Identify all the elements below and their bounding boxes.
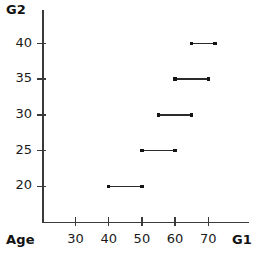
y-tick-label: 20: [6, 177, 32, 192]
x-tick-mark: [174, 217, 176, 226]
x-tick-mark: [108, 217, 110, 226]
y-tick-label: 40: [6, 35, 32, 50]
y-tick-mark: [37, 78, 46, 80]
segment-endpoint-marker: [190, 113, 194, 117]
segment-endpoint-marker: [140, 185, 144, 189]
segment-endpoint-marker: [140, 149, 144, 153]
segment-endpoint-marker: [207, 77, 211, 81]
x-axis-line: [42, 222, 249, 224]
x-tick-mark: [141, 217, 143, 226]
y-tick-mark: [37, 114, 46, 116]
y-tick-mark: [37, 150, 46, 152]
segment-endpoint-marker: [157, 113, 161, 117]
chart-canvas: G2 Age G1 2025303540 3040506070: [0, 0, 269, 262]
x-axis-title: G1: [232, 232, 252, 247]
segment-endpoint-marker: [173, 149, 177, 153]
x-tick-mark: [75, 217, 77, 226]
origin-axis-label: Age: [6, 232, 35, 247]
y-tick-label: 30: [6, 106, 32, 121]
x-tick-label: 70: [195, 231, 221, 246]
y-axis-title: G2: [6, 2, 26, 17]
segment-endpoint-marker: [173, 77, 177, 81]
y-tick-label: 35: [6, 70, 32, 85]
y-tick-mark: [37, 186, 46, 188]
x-tick-mark: [208, 217, 210, 226]
x-tick-label: 60: [162, 231, 188, 246]
data-segment: [159, 114, 192, 116]
data-segment: [175, 78, 208, 80]
segment-endpoint-marker: [107, 185, 111, 189]
data-segment: [192, 43, 215, 45]
x-tick-label: 40: [96, 231, 122, 246]
segment-endpoint-marker: [213, 42, 217, 46]
data-segment: [109, 186, 142, 188]
x-tick-label: 30: [63, 231, 89, 246]
data-segment: [142, 150, 175, 152]
y-tick-label: 25: [6, 142, 32, 157]
x-tick-label: 50: [129, 231, 155, 246]
segment-endpoint-marker: [190, 42, 194, 46]
y-tick-mark: [37, 43, 46, 45]
